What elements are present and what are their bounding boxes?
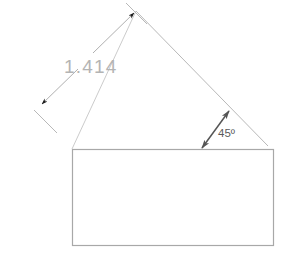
dimension-label: 1.414 xyxy=(64,56,118,77)
dimension-line-upper-segment xyxy=(93,13,134,53)
angle-label: 45º xyxy=(218,127,236,139)
drawing-svg: 1.414 45º xyxy=(0,0,283,256)
diagonal-line-left xyxy=(72,11,136,149)
technical-drawing-canvas: 1.414 45º xyxy=(0,0,283,256)
diagonal-line-main xyxy=(136,11,268,146)
extension-tick-top xyxy=(126,3,147,24)
extension-tick-bottom xyxy=(34,110,57,133)
rectangle-shape xyxy=(73,150,274,246)
